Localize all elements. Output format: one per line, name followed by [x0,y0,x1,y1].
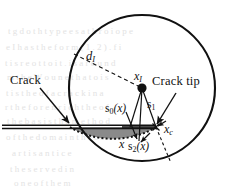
s0-label-arg: (x) [113,102,126,114]
diagram-canvas [0,0,230,186]
node-label-sub: I [139,75,142,84]
s0-label: s0(x) [105,103,126,116]
crack-tip-annotation-arrow [157,93,176,124]
eval-point-base: x [119,137,124,151]
crack-tip-point-sub: c [169,128,173,137]
radius-label-sub: I [92,54,95,64]
crack-annotation-arrow [40,88,69,123]
radius-label: dI [86,50,95,64]
eval-point-label: x [119,138,124,150]
s2-label: s2(x) [128,141,149,154]
crack-annotation-label: Crack [10,74,41,87]
radius-dashed-line [74,54,142,88]
node-label: xI [134,70,142,84]
s2-label-arg: (x) [136,140,149,152]
crack-tip-point-label: xc [164,123,173,137]
s1-label: s1 [147,99,155,112]
s1-label-sub: 1 [151,103,155,112]
crack-diagram-figure: t g d o t h t y p e e s a t h r o i o p … [0,0,230,186]
crack-tip-annotation-label: Crack tip [152,75,200,88]
node-point-marker [137,83,146,92]
